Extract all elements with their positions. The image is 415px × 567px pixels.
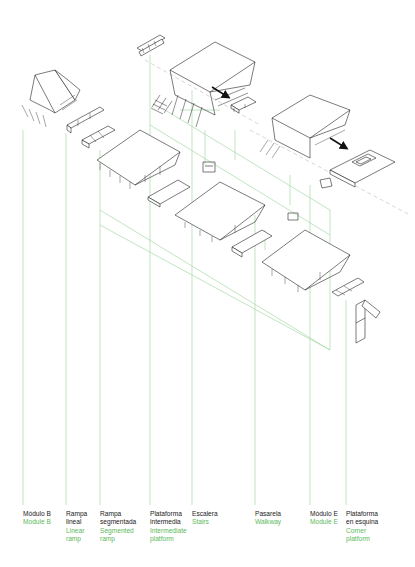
label-rampa-segmentada: Rampa segmentada Segmented ramp — [100, 510, 136, 544]
label-modulo-b: Módulo B Module B — [23, 510, 51, 527]
label-es: lineal — [66, 518, 87, 526]
label-en: Walkway — [255, 518, 281, 526]
drawing-linework — [22, 35, 395, 343]
label-es: Escalera — [192, 510, 218, 518]
top-module — [151, 42, 255, 127]
module-b — [22, 70, 80, 127]
label-escalera: Escalera Stairs — [192, 510, 218, 527]
ramp-lower-right — [332, 278, 364, 296]
module-middle-left — [97, 130, 180, 189]
label-en: Segmented — [100, 527, 136, 535]
label-es: Plataforma — [346, 510, 378, 518]
label-en: Module B — [23, 518, 51, 526]
label-rampa-lineal: Rampa lineal Linear ramp — [66, 510, 87, 544]
label-en: platform — [150, 535, 187, 543]
top-ramp — [137, 35, 165, 56]
label-es: intermedia — [150, 518, 187, 526]
label-es: segmentada — [100, 518, 136, 526]
module-lower-right — [262, 230, 350, 292]
label-en: Module E — [310, 518, 338, 526]
label-plataforma-esquina: Plataforma en esquina Corner platform — [346, 510, 378, 544]
label-en: Linear — [66, 527, 87, 535]
arrow-1 — [212, 87, 228, 97]
label-es: Rampa — [66, 510, 87, 518]
corner-platform-stand — [356, 300, 380, 343]
exploded-axonometric-drawing — [0, 0, 415, 567]
linear-ramp — [67, 107, 104, 133]
small-stairs — [320, 178, 332, 188]
label-es: Pasarela — [255, 510, 281, 518]
walkway — [232, 230, 272, 257]
label-en: Stairs — [192, 518, 218, 526]
label-en: ramp — [100, 535, 136, 543]
label-modulo-e: Módulo E Module E — [310, 510, 338, 527]
small-platform-top — [231, 97, 256, 113]
label-en: Intermediate — [150, 527, 187, 535]
segmented-ramp — [82, 126, 115, 148]
corner-platform — [330, 150, 395, 187]
bracket-piece — [288, 213, 298, 220]
label-plataforma-intermedia: Plataforma intermedia Intermediate platf… — [150, 510, 187, 544]
intermediate-platform — [148, 180, 190, 207]
label-en: Corner — [346, 527, 378, 535]
label-pasarela: Pasarela Walkway — [255, 510, 281, 527]
label-es: Módulo E — [310, 510, 338, 518]
label-es: Módulo B — [23, 510, 51, 518]
label-es: en esquina — [346, 518, 378, 526]
label-es: Plataforma — [150, 510, 187, 518]
label-es: Rampa — [100, 510, 136, 518]
arrow-2 — [330, 138, 346, 148]
label-en: platform — [346, 535, 378, 543]
label-en: ramp — [66, 535, 87, 543]
module-e — [260, 95, 350, 158]
module-middle — [175, 182, 265, 242]
